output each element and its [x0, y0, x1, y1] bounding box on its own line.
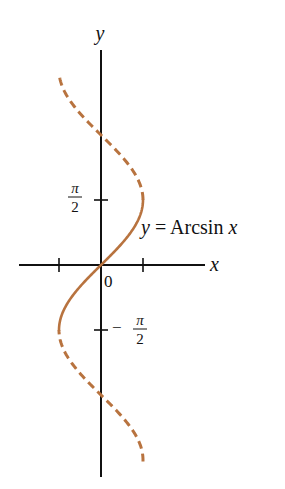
denominator: 2 [136, 331, 144, 347]
minus-sign: − [112, 318, 122, 337]
x-axis-label: x [209, 253, 219, 275]
curve-label-x: x [227, 216, 237, 238]
curve-label-y: y [139, 216, 150, 239]
y-axis-label: y [94, 22, 105, 45]
curve-label-eq: = Arcsin [150, 216, 229, 238]
denominator: 2 [71, 199, 79, 215]
curve-label: y = Arcsin x [139, 216, 237, 239]
pi-numerator: π [136, 312, 144, 328]
pi-numerator: π [71, 180, 79, 196]
tick-label-neg-pi-over-2: − π 2 [112, 312, 147, 347]
tick-label-pi-over-2: π 2 [68, 180, 82, 215]
origin-label: 0 [104, 272, 113, 291]
arcsin-graph: y x 0 π 2 − π 2 y = Arcsin x [0, 0, 285, 489]
